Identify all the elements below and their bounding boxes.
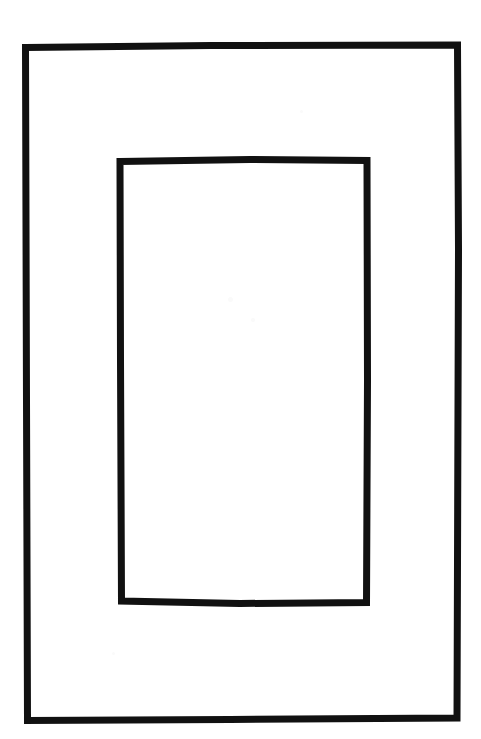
line-drawing-figure bbox=[0, 0, 481, 739]
outer-rectangle bbox=[26, 45, 459, 721]
inner-rectangle bbox=[120, 160, 368, 604]
drawing-canvas bbox=[0, 0, 481, 739]
